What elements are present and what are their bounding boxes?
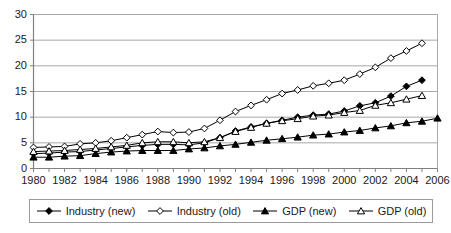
y-tick-label: 25 [2, 34, 27, 45]
y-tick-label: 5 [2, 137, 27, 148]
data-point-marker [156, 208, 163, 215]
legend-label: Industry (new) [66, 206, 136, 217]
data-point-marker [372, 64, 379, 71]
data-point-marker [434, 115, 441, 121]
legend-item-industry-old[interactable]: Industry (old) [147, 205, 241, 217]
filled-diamond-icon [36, 205, 62, 217]
y-tick-label: 10 [2, 111, 27, 122]
data-point-marker [310, 82, 317, 89]
gridlines [34, 15, 438, 143]
y-tick-label: 15 [2, 86, 27, 97]
open-diamond-icon [147, 205, 173, 217]
y-tick-label: 30 [2, 9, 27, 20]
data-point-marker [185, 129, 192, 136]
data-point-marker [325, 80, 332, 87]
data-point-marker [418, 92, 425, 98]
data-point-marker [294, 87, 301, 94]
data-point-marker [154, 128, 161, 135]
legend-item-gdp-old[interactable]: GDP (old) [348, 205, 427, 217]
open-triangle-icon [348, 205, 374, 217]
data-point-marker [387, 55, 394, 62]
filled-triangle-icon [252, 205, 278, 217]
data-point-marker [419, 40, 426, 47]
line-chart-figure: 302520151050 198019821984198619881990199… [0, 0, 451, 233]
series-line [34, 43, 422, 147]
data-point-marker [263, 96, 270, 103]
legend-label: GDP (new) [282, 206, 336, 217]
chart-legend: Industry (new)Industry (old)GDP (new)GDP… [29, 199, 433, 223]
data-point-marker [217, 117, 224, 124]
data-point-marker [123, 134, 130, 141]
y-tick-label: 20 [2, 60, 27, 71]
data-point-marker [419, 77, 426, 84]
data-point-marker [170, 129, 177, 136]
data-point-marker [45, 208, 52, 215]
legend-item-gdp-new[interactable]: GDP (new) [252, 205, 336, 217]
legend-label: GDP (old) [378, 206, 427, 217]
data-point-marker [356, 107, 363, 113]
data-point-marker [201, 125, 208, 132]
data-point-marker [403, 83, 410, 90]
data-point-marker [248, 102, 255, 109]
data-point-marker [403, 48, 410, 55]
data-point-marker [341, 77, 348, 84]
data-point-marker [232, 108, 239, 115]
data-point-marker [139, 131, 146, 138]
legend-label: Industry (old) [177, 206, 241, 217]
legend-entries: Industry (new)Industry (old)GDP (new)GDP… [30, 200, 432, 222]
series-gdp-new [30, 115, 441, 160]
y-tick-label: 0 [2, 163, 27, 174]
data-series-group [30, 40, 441, 160]
x-tick-label: 2006 [420, 175, 451, 186]
legend-item-industry-new[interactable]: Industry (new) [36, 205, 136, 217]
data-point-marker [356, 71, 363, 78]
